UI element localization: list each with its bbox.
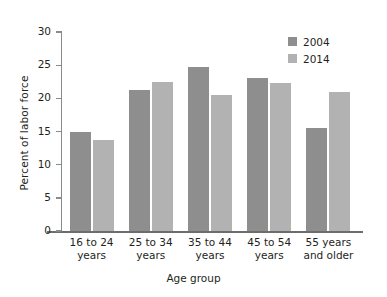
x-axis-line xyxy=(47,231,363,233)
bar-2014-2 xyxy=(211,95,232,231)
y-tick-label: 5 xyxy=(25,191,51,203)
y-tick-mark xyxy=(56,65,61,66)
x-group-label-line: 16 to 24 xyxy=(62,236,121,249)
x-group-label-line: years xyxy=(62,249,121,262)
bar-2004-2 xyxy=(188,67,209,231)
x-group-label-0: 16 to 24years xyxy=(62,236,121,261)
x-group-label-line: 35 to 44 xyxy=(180,236,239,249)
bar-2014-4 xyxy=(329,92,350,231)
bar-2014-3 xyxy=(270,83,291,231)
x-group-label-line: 55 years xyxy=(299,236,358,249)
y-tick-mark xyxy=(56,164,61,165)
legend-label-2004: 2004 xyxy=(303,36,330,48)
x-group-label-line: 25 to 34 xyxy=(121,236,180,249)
y-tick-label: 15 xyxy=(25,125,51,137)
y-tick-mark xyxy=(56,31,61,32)
y-tick-mark xyxy=(56,197,61,198)
x-group-label-line: years xyxy=(121,249,180,262)
y-tick-label: 25 xyxy=(25,58,51,70)
legend-item-2004: 2004 xyxy=(288,33,330,50)
bar-2014-0 xyxy=(93,140,114,231)
y-tick-mark xyxy=(56,98,61,99)
bar-chart: Percent of labor force 051015202530 16 t… xyxy=(0,0,387,297)
x-group-label-3: 45 to 54years xyxy=(240,236,299,261)
bar-2014-1 xyxy=(152,82,173,231)
y-tick-label: 20 xyxy=(25,91,51,103)
bar-2004-1 xyxy=(129,90,150,231)
y-tick-mark xyxy=(56,230,61,231)
legend: 2004 2014 xyxy=(288,33,330,67)
x-group-label-2: 35 to 44years xyxy=(180,236,239,261)
x-group-label-line: and older xyxy=(299,249,358,262)
x-axis-title: Age group xyxy=(0,272,387,284)
y-tick-label: 10 xyxy=(25,158,51,170)
legend-swatch-2014-icon xyxy=(288,54,297,63)
bar-2004-0 xyxy=(70,132,91,232)
x-group-label-1: 25 to 34years xyxy=(121,236,180,261)
legend-item-2014: 2014 xyxy=(288,50,330,67)
legend-label-2014: 2014 xyxy=(303,53,330,65)
bar-2004-3 xyxy=(247,78,268,231)
x-group-label-line: years xyxy=(180,249,239,262)
y-tick-label: 0 xyxy=(25,224,51,236)
x-group-label-line: years xyxy=(240,249,299,262)
y-tick-label: 30 xyxy=(25,25,51,37)
x-group-label-line: 45 to 54 xyxy=(240,236,299,249)
legend-swatch-2004-icon xyxy=(288,37,297,46)
y-tick-mark xyxy=(56,131,61,132)
x-group-label-4: 55 yearsand older xyxy=(299,236,358,261)
bar-2004-4 xyxy=(306,128,327,231)
